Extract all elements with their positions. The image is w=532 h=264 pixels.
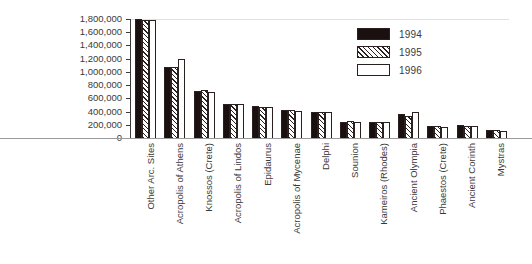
x-axis-tick-label: Phaestos (Crete) (438, 143, 448, 215)
bar-1994 (164, 67, 171, 138)
x-axis-label-cell: Delphi (306, 141, 335, 261)
x-axis-tick-label: Acropolis of Lindos (233, 143, 243, 223)
legend-swatch-icon (357, 28, 390, 40)
y-axis-tick-mark (126, 45, 130, 46)
bar-group (248, 19, 277, 138)
bar-group (160, 19, 189, 138)
bar-1996 (178, 59, 185, 138)
bar-1996 (441, 127, 448, 138)
bar-1996 (325, 112, 332, 138)
bar-group (189, 19, 218, 138)
x-axis-tick-label: Delphi (321, 143, 331, 170)
bar-1994 (486, 130, 493, 138)
bar-1994 (194, 91, 201, 138)
bar-1994 (369, 122, 376, 139)
x-axis-label-cell: Acropolis of Lindos (219, 141, 248, 261)
x-axis-tick-label: Sounion (350, 143, 360, 178)
legend-item[interactable]: 1996 (357, 64, 422, 76)
y-axis-tick-mark (126, 59, 130, 60)
bar-1995 (347, 121, 354, 138)
bar-1995 (142, 20, 149, 138)
bar-1994 (281, 110, 288, 138)
x-axis-label-cell: Phaestos (Crete) (423, 141, 452, 261)
bar-1996 (208, 92, 215, 138)
x-axis-baseline (0, 138, 532, 139)
y-axis-tick-label: 800,000 (88, 80, 122, 90)
y-axis-tick-mark (126, 32, 130, 33)
y-axis-tick-label: 400,000 (88, 107, 122, 117)
x-axis-tick-label: Ancient Olympia (409, 143, 419, 212)
bar-group (306, 19, 335, 138)
bar-1996 (354, 122, 361, 139)
legend-label: 1994 (399, 29, 422, 40)
x-axis-tick-label: Mystras (496, 143, 506, 176)
x-axis-label-cell: Acropolis of Athens (160, 141, 189, 261)
bar-group (453, 19, 482, 138)
bar-groups (131, 19, 511, 138)
x-axis-tick-label: Knossos (Crete) (204, 143, 214, 212)
chart-container: 1,800,0001,600,0001,400,0001,200,0001,00… (0, 0, 532, 264)
bar-group (219, 19, 248, 138)
bar-1996 (149, 20, 156, 138)
x-axis-label-cell: Sounion (336, 141, 365, 261)
y-axis-tick-label: 1,800,000 (80, 14, 122, 24)
y-axis-tick-label: 1,400,000 (80, 40, 122, 50)
y-axis-tick-mark (126, 98, 130, 99)
x-axis-label-cell: Ancient Corinth (453, 141, 482, 261)
bar-1994 (311, 112, 318, 138)
bar-group (131, 19, 160, 138)
bar-1996 (266, 107, 273, 138)
y-axis-tick-mark (126, 19, 130, 20)
y-axis-labels: 1,800,0001,600,0001,400,0001,200,0001,00… (0, 0, 127, 150)
legend-swatch-icon (357, 46, 390, 58)
bar-1996 (471, 126, 478, 138)
x-axis-label-cell: Kameiros (Rhodes) (365, 141, 394, 261)
bar-1996 (295, 111, 302, 138)
y-axis-tick-label: 600,000 (88, 93, 122, 103)
bar-1994 (340, 122, 347, 139)
y-axis-tick-label: 1,600,000 (80, 27, 122, 37)
x-axis-label-cell: Epidaurus (248, 141, 277, 261)
x-axis-label-cell: Other Arc. Sites (131, 141, 160, 261)
x-axis-labels: Other Arc. SitesAcropolis of AthensKnoss… (131, 141, 511, 261)
y-axis-tick-label: 200,000 (88, 120, 122, 130)
x-axis-label-cell: Acropolis of Mycenae (277, 141, 306, 261)
bar-1995 (464, 126, 471, 138)
bar-1994 (223, 104, 230, 138)
bar-group (277, 19, 306, 138)
bar-1994 (427, 126, 434, 138)
bar-1995 (376, 122, 383, 139)
bar-1996 (383, 122, 390, 138)
bar-1995 (201, 90, 208, 138)
bar-1995 (318, 112, 325, 138)
legend-swatch-icon (357, 64, 390, 76)
bar-1995 (434, 126, 441, 138)
x-axis-tick-label: Kameiros (Rhodes) (379, 143, 389, 225)
bar-1996 (500, 131, 507, 138)
x-axis-label-cell: Ancient Olympia (394, 141, 423, 261)
x-axis-tick-label: Acropolis of Athens (175, 143, 185, 224)
bar-1995 (230, 104, 237, 138)
chart-legend: 199419951996 (357, 28, 422, 76)
bar-1995 (493, 130, 500, 138)
bar-1995 (171, 67, 178, 138)
legend-item[interactable]: 1994 (357, 28, 422, 40)
legend-label: 1995 (399, 47, 422, 58)
bar-group (482, 19, 511, 138)
bar-group (423, 19, 452, 138)
x-axis-tick-label: Ancient Corinth (467, 143, 477, 208)
x-axis-tick-label: Acropolis of Mycenae (292, 143, 302, 234)
bar-1994 (457, 125, 464, 138)
bar-1995 (405, 116, 412, 139)
y-axis-tick-label: 1,000,000 (80, 67, 122, 77)
bar-1996 (237, 104, 244, 138)
x-axis-label-cell: Mystras (482, 141, 511, 261)
x-axis-label-cell: Knossos (Crete) (189, 141, 218, 261)
bar-1995 (259, 107, 266, 138)
y-axis-tick-label: 1,200,000 (80, 54, 122, 64)
y-axis-tick-mark (126, 85, 130, 86)
bar-1994 (252, 106, 259, 138)
x-axis-tick-label: Other Arc. Sites (146, 143, 156, 210)
x-axis-tick-label: Epidaurus (263, 143, 273, 186)
legend-item[interactable]: 1995 (357, 46, 422, 58)
